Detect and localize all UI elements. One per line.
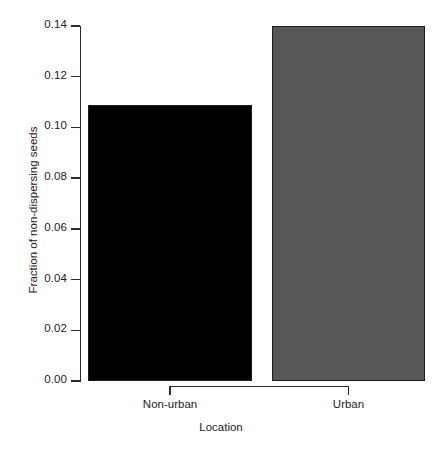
bar-non-urban (88, 105, 252, 381)
x-axis-tick-label: Urban (289, 398, 409, 410)
bar-chart-figure: 0.140.120.100.080.060.040.020.00 Fractio… (0, 0, 442, 449)
x-axis-title: Location (0, 421, 442, 433)
plot-area (0, 0, 442, 449)
x-axis-line (170, 386, 349, 387)
x-axis-tick (348, 386, 349, 395)
bar-urban (272, 26, 425, 381)
x-axis-tick-label: Non-urban (110, 398, 230, 410)
x-axis-tick (169, 386, 170, 395)
